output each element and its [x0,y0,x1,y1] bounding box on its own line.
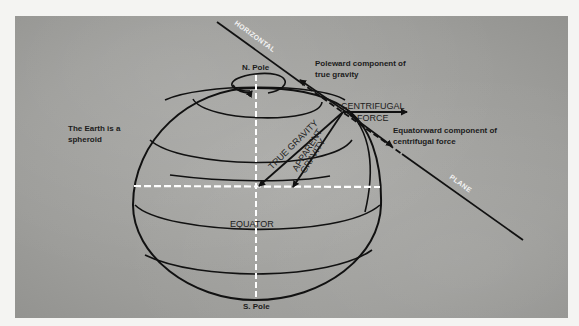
centrifugal-label-line2: FORCE [357,113,389,123]
earth-note-line2: spheroid [68,135,102,144]
equatorward-label-line1: Equatorward component of [393,126,497,135]
poleward-label-line1: Poleward component of [315,59,406,68]
equatorward-label-line2: centrifugal force [393,137,456,146]
equatorial-line [134,186,380,187]
spheroid-outline [133,88,381,300]
centrifugal-label-line1: CENTRIFUGAL [341,101,405,111]
s-pole-label: S. Pole [243,302,270,311]
earth-note-line1: The Earth is a [68,124,121,133]
n-pole-label: N. Pole [242,63,270,72]
rotation-indicator [232,73,285,93]
earth-spheroid-diagram: N. Pole S. Pole EQUATOR The Earth is a s… [0,0,579,326]
horizontal-label: HORIZONTAL [233,19,277,53]
latitude-lines [135,87,380,274]
equator-label: EQUATOR [230,219,274,229]
poleward-label-line2: true gravity [315,70,359,79]
